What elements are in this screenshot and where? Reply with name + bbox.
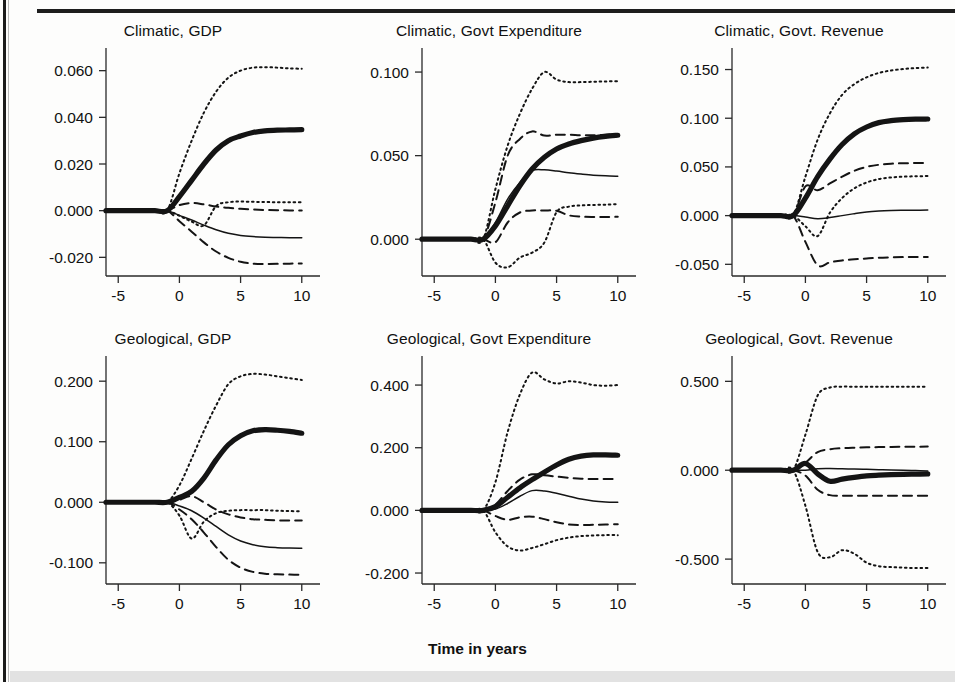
panel-plot: -0.2000.0000.2000.400-50510 <box>330 348 648 620</box>
y-tick-label: 0.000 <box>54 202 93 219</box>
panel-plot: -0.0500.0000.0500.1000.150-50510 <box>640 40 955 312</box>
figure-panel-grid: Climatic, GDP -0.0200.0000.0200.0400.060… <box>0 0 955 682</box>
y-tick-label: 0.200 <box>54 373 93 390</box>
series-line <box>422 135 618 240</box>
x-tick-label: -5 <box>111 287 125 304</box>
panel-title: Climatic, GDP <box>14 22 332 40</box>
x-tick-label: -5 <box>737 595 751 612</box>
series-line <box>106 210 302 237</box>
series-line <box>422 204 618 267</box>
y-tick-label: 0.020 <box>54 156 93 173</box>
y-tick-label: 0.000 <box>54 494 93 511</box>
panel-title: Geological, Govt Expenditure <box>330 330 648 348</box>
series-line <box>732 163 928 218</box>
y-tick-label: 0.500 <box>680 373 719 390</box>
series-line <box>732 447 928 471</box>
panel-geological-govt-revenue: Geological, Govt. Revenue -0.5000.0000.5… <box>640 330 955 630</box>
series-line <box>106 502 302 575</box>
series-group <box>422 72 618 268</box>
series-line <box>732 68 928 219</box>
x-tick-label: 5 <box>552 595 561 612</box>
panel-geological-gdp: Geological, GDP -0.1000.0000.1000.200-50… <box>14 330 332 630</box>
y-tick-label: 0.100 <box>680 110 719 127</box>
y-tick-label: 0.040 <box>54 109 93 126</box>
panel-plot: -0.5000.0000.500-50510 <box>640 348 955 620</box>
x-tick-label: 0 <box>801 287 810 304</box>
x-tick-label: 10 <box>609 287 627 304</box>
x-tick-label: 10 <box>919 287 937 304</box>
x-tick-label: 0 <box>801 595 810 612</box>
y-tick-label: 0.100 <box>370 64 409 81</box>
y-tick-label: 0.060 <box>54 62 93 79</box>
y-tick-label: -0.500 <box>675 551 719 568</box>
panel-title: Climatic, Govt Expenditure <box>330 22 648 40</box>
series-group <box>732 387 928 568</box>
y-tick-label: 0.150 <box>680 61 719 78</box>
y-tick-label: 0.000 <box>370 231 409 248</box>
x-tick-label: 5 <box>552 287 561 304</box>
x-tick-label: 10 <box>609 595 627 612</box>
series-line <box>732 214 928 267</box>
series-line <box>732 119 928 217</box>
axes <box>106 356 320 584</box>
series-line <box>106 67 302 213</box>
axes <box>106 48 320 276</box>
axes <box>422 356 636 584</box>
y-tick-label: -0.050 <box>675 256 719 273</box>
y-tick-label: -0.200 <box>365 565 409 582</box>
y-tick-label: -0.100 <box>49 554 93 571</box>
panel-climatic-govt-revenue: Climatic, Govt. Revenue -0.0500.0000.050… <box>640 22 955 322</box>
x-tick-label: -5 <box>427 595 441 612</box>
panel-climatic-govt-expenditure: Climatic, Govt Expenditure 0.0000.0500.1… <box>330 22 648 322</box>
series-line <box>106 202 302 227</box>
x-tick-label: 5 <box>236 287 245 304</box>
panel-climatic-gdp: Climatic, GDP -0.0200.0000.0200.0400.060… <box>14 22 332 322</box>
y-tick-label: 0.400 <box>370 377 409 394</box>
series-line <box>106 130 302 212</box>
panel-plot: 0.0000.0500.100-50510 <box>330 40 648 312</box>
series-line <box>106 502 302 548</box>
x-tick-label: 5 <box>862 287 871 304</box>
x-tick-label: -5 <box>111 595 125 612</box>
x-tick-label: 0 <box>175 287 184 304</box>
y-tick-label: -0.020 <box>49 249 93 266</box>
series-group <box>106 67 302 264</box>
series-group <box>422 372 618 550</box>
panel-geological-govt-expenditure: Geological, Govt Expenditure -0.2000.000… <box>330 330 648 630</box>
x-tick-label: -5 <box>427 287 441 304</box>
y-tick-label: 0.000 <box>370 502 409 519</box>
y-tick-label: 0.050 <box>680 158 719 175</box>
axes <box>732 48 946 276</box>
x-tick-label: 0 <box>175 595 184 612</box>
y-tick-label: 0.050 <box>370 147 409 164</box>
x-tick-label: 5 <box>862 595 871 612</box>
x-axis-label: Time in years <box>0 640 955 658</box>
series-line <box>422 455 618 511</box>
x-tick-label: 0 <box>491 595 500 612</box>
x-tick-label: 10 <box>919 595 937 612</box>
series-group <box>106 374 302 575</box>
x-tick-label: -5 <box>737 287 751 304</box>
panel-title: Geological, GDP <box>14 330 332 348</box>
series-line <box>422 509 618 551</box>
series-line <box>732 387 928 473</box>
series-line <box>732 176 928 236</box>
x-tick-label: 5 <box>236 595 245 612</box>
panel-title: Geological, Govt. Revenue <box>640 330 955 348</box>
y-tick-label: 0.200 <box>370 439 409 456</box>
x-tick-label: 10 <box>293 287 311 304</box>
panel-title: Climatic, Govt. Revenue <box>640 22 955 40</box>
panel-plot: -0.1000.0000.1000.200-50510 <box>14 348 332 620</box>
series-line <box>422 490 618 510</box>
x-tick-label: 0 <box>491 287 500 304</box>
x-tick-label: 10 <box>293 595 311 612</box>
series-line <box>106 374 302 504</box>
series-line <box>422 372 618 512</box>
series-group <box>732 68 928 267</box>
series-line <box>422 474 618 511</box>
y-tick-label: 0.100 <box>54 433 93 450</box>
series-line <box>106 430 302 503</box>
y-tick-label: 0.000 <box>680 207 719 224</box>
y-tick-label: 0.000 <box>680 462 719 479</box>
panel-plot: -0.0200.0000.0200.0400.060-50510 <box>14 40 332 312</box>
